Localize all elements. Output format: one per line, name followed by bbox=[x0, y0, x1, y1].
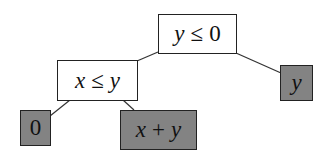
root-rhs: 0 bbox=[209, 21, 221, 46]
edge-left-to-right-leaf bbox=[123, 100, 134, 110]
root-decision-node: y≤0 bbox=[158, 14, 237, 54]
left-condition: x≤y bbox=[75, 68, 120, 94]
left-right-leaf-lhs: x bbox=[136, 117, 146, 142]
root-op: ≤ bbox=[191, 21, 204, 46]
left-right-leaf-node: x+y bbox=[120, 110, 197, 150]
edge-root-to-left bbox=[137, 52, 158, 61]
left-right-leaf-op: + bbox=[152, 117, 165, 142]
left-decision-node: x≤y bbox=[57, 60, 138, 101]
left-left-leaf-expr: 0 bbox=[30, 115, 42, 141]
left-lhs: x bbox=[75, 68, 85, 93]
root-lhs: y bbox=[174, 21, 184, 46]
left-op: ≤ bbox=[91, 68, 104, 93]
left-right-leaf-expr: x+y bbox=[136, 117, 181, 143]
left-right-leaf-rhs: y bbox=[171, 117, 181, 142]
edge-left-to-left-leaf bbox=[50, 100, 70, 116]
left-left-leaf-node: 0 bbox=[20, 110, 51, 146]
right-leaf-expr: y bbox=[291, 70, 301, 96]
left-rhs: y bbox=[110, 68, 120, 93]
edge-root-to-right-leaf bbox=[236, 53, 281, 73]
root-condition: y≤0 bbox=[174, 21, 220, 47]
right-leaf-node: y bbox=[280, 65, 313, 101]
